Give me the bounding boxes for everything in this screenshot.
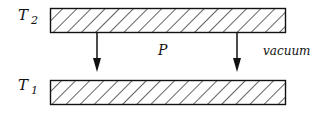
temperature-subscript: 1: [31, 84, 38, 97]
temperature-symbol: T: [18, 6, 28, 24]
top-plate: [51, 9, 286, 33]
top-plate-temperature-label: T2: [18, 6, 35, 24]
temperature-symbol: T: [18, 76, 28, 94]
temperature-subscript: 2: [31, 14, 38, 27]
bottom-plate-temperature-label: T1: [18, 76, 35, 94]
power-label: P: [158, 42, 167, 58]
heat-flow-arrow-right: [233, 33, 241, 72]
bottom-plate: [51, 81, 286, 105]
heat-flow-arrow-left: [93, 33, 101, 72]
vacuum-label: vacuum: [263, 44, 311, 58]
